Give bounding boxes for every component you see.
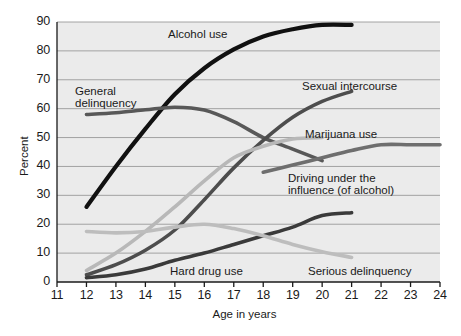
x-tick-label: 14	[133, 288, 157, 302]
series-line-1	[86, 107, 322, 160]
y-tick-label: 70	[16, 72, 50, 86]
series-annotation-2: delinquency	[75, 97, 136, 110]
y-tick-label: 80	[16, 43, 50, 57]
series-annotation-8: Serious delinquency	[308, 265, 412, 278]
x-tick-label: 21	[340, 288, 364, 302]
y-tick-label: 10	[16, 245, 50, 259]
series-annotation-5: Driving under the	[288, 172, 376, 185]
x-tick-label: 13	[104, 288, 128, 302]
series-line-6	[86, 224, 351, 257]
x-tick-label: 15	[163, 288, 187, 302]
series-group	[86, 25, 440, 278]
series-annotation-6: influence (of alcohol)	[288, 184, 394, 197]
x-tick-label: 22	[369, 288, 393, 302]
y-tick-label: 50	[16, 130, 50, 144]
x-tick-label: 17	[222, 288, 246, 302]
x-axis-label: Age in years	[213, 308, 277, 320]
x-tick-label: 23	[399, 288, 423, 302]
x-tick-label: 11	[45, 288, 69, 302]
series-annotation-0: Alcohol use	[168, 28, 227, 41]
series-annotation-3: Sexual intercourse	[302, 80, 397, 93]
y-tick-label: 0	[16, 274, 50, 288]
gridlines	[57, 22, 440, 253]
y-tick-label: 20	[16, 216, 50, 230]
chart-svg-layer	[0, 0, 461, 336]
x-tick-label: 24	[428, 288, 452, 302]
x-tick-label: 20	[310, 288, 334, 302]
series-annotation-4: Marijuana use	[305, 128, 377, 141]
y-tick-label: 60	[16, 101, 50, 115]
series-annotation-7: Hard drug use	[170, 265, 243, 278]
y-tick-label: 30	[16, 187, 50, 201]
x-tick-label: 19	[281, 288, 305, 302]
x-tick-label: 16	[192, 288, 216, 302]
line-chart: Percent Age in years 0102030405060708090…	[0, 0, 461, 336]
series-annotation-1: General	[75, 85, 116, 98]
y-tick-label: 90	[16, 14, 50, 28]
x-tick-label: 12	[74, 288, 98, 302]
x-tick-label: 18	[251, 288, 275, 302]
y-tick-label: 40	[16, 158, 50, 172]
